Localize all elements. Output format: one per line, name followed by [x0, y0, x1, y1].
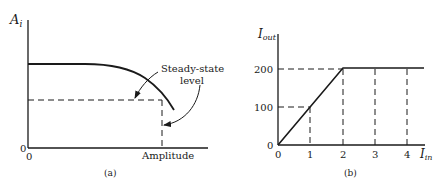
- figure: Ai 0 0 Amplitude Steady-state level (a) …: [0, 0, 447, 187]
- annotation-line-2: level: [180, 75, 204, 86]
- x-tick-4: 4: [404, 149, 410, 160]
- x-axis-label: Amplitude: [141, 150, 194, 161]
- y-axis-label: Ai: [9, 12, 22, 29]
- y-tick-200: 200: [254, 64, 273, 75]
- x-origin-label: 0: [26, 151, 32, 162]
- y-tick-0: 0: [267, 140, 273, 151]
- panel-a: Ai 0 0 Amplitude Steady-state level (a): [9, 12, 224, 178]
- annotation-arrow-to-vertical: [164, 85, 200, 125]
- x-tick-1: 1: [307, 149, 313, 160]
- y-axis-label: Iout: [257, 27, 277, 42]
- gain-curve: [28, 64, 174, 110]
- x-tick-0: 0: [275, 149, 281, 160]
- x-tick-3: 3: [372, 149, 378, 160]
- panel-b: 0 100 200 0 1 2 3 4 Iout Iin (b): [254, 27, 432, 178]
- annotation-line-1: Steady-state: [161, 63, 224, 74]
- x-axis-label: Iin: [419, 147, 432, 162]
- x-tick-2: 2: [340, 149, 346, 160]
- panel-a-caption: (a): [104, 168, 116, 178]
- y-tick-100: 100: [254, 102, 273, 113]
- panel-b-caption: (b): [344, 168, 357, 178]
